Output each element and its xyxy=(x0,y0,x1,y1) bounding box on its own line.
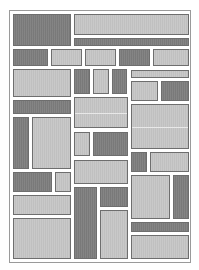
block-light xyxy=(13,69,71,97)
block-light xyxy=(55,172,71,192)
block-light xyxy=(153,49,189,66)
block-dark xyxy=(74,69,90,94)
block-light xyxy=(13,195,71,215)
block-light xyxy=(32,117,71,169)
block-dark xyxy=(13,14,71,46)
block-light xyxy=(93,69,109,94)
block-dark xyxy=(131,222,189,232)
block-light xyxy=(131,104,189,149)
block-dark xyxy=(131,152,147,172)
block-dark xyxy=(13,100,71,114)
block-dark xyxy=(74,38,189,46)
block-light xyxy=(131,81,158,101)
block-light xyxy=(85,49,116,66)
block-light xyxy=(13,218,71,259)
block-light xyxy=(150,152,189,172)
block-dark xyxy=(13,117,29,169)
block-dark xyxy=(112,69,127,94)
block-light xyxy=(51,49,82,66)
block-dark xyxy=(161,81,189,101)
block-light xyxy=(131,70,189,78)
block-dark xyxy=(13,172,52,192)
block-light xyxy=(74,97,128,128)
block-dark xyxy=(74,187,97,259)
block-light xyxy=(131,175,170,219)
block-dark xyxy=(173,175,189,219)
block-light xyxy=(74,132,90,156)
block-dark xyxy=(119,49,150,66)
block-dark xyxy=(93,132,128,156)
block-light xyxy=(74,160,128,184)
block-dark xyxy=(100,187,128,207)
block-dark xyxy=(13,49,48,66)
block-light xyxy=(74,14,189,35)
block-light xyxy=(131,235,189,259)
block-light xyxy=(100,210,128,259)
